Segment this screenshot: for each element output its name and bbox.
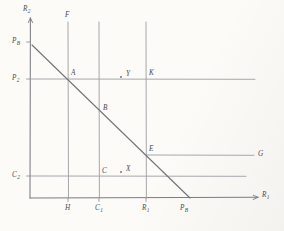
x-tick-label-pb: PB bbox=[180, 205, 188, 212]
x-tick-label-r1: R1 bbox=[142, 205, 150, 212]
point-marker-Y bbox=[120, 76, 122, 78]
x-tick-label-c1: C1 bbox=[95, 205, 103, 212]
y-tick-label-c2: C2 bbox=[12, 172, 20, 179]
budget-line bbox=[32, 45, 190, 198]
point-label-A: A bbox=[71, 70, 76, 77]
horizontal-line-g-label: G bbox=[258, 151, 263, 158]
point-label-B: B bbox=[103, 105, 108, 112]
point-label-K: K bbox=[149, 70, 154, 77]
vertical-line-f bbox=[68, 22, 69, 198]
x-tick-label-h: H bbox=[65, 205, 70, 212]
point-label-Y: Y bbox=[126, 71, 130, 78]
x-axis-label: R1 bbox=[262, 192, 270, 199]
graph-svg bbox=[0, 0, 284, 231]
y-tick-label-pb: PB bbox=[12, 38, 20, 45]
figure-canvas: R2 R1 PB P2 C2 H C1 R1 PB F G A B C E bbox=[0, 0, 284, 231]
vertical-line-f-label: F bbox=[65, 12, 70, 19]
point-marker-X bbox=[120, 171, 122, 173]
x-axis bbox=[30, 197, 258, 198]
point-label-X: X bbox=[126, 166, 131, 173]
y-tick-label-p2: P2 bbox=[12, 75, 20, 82]
point-label-C: C bbox=[102, 168, 107, 175]
y-axis-label: R2 bbox=[23, 6, 31, 13]
point-label-E: E bbox=[149, 146, 154, 153]
